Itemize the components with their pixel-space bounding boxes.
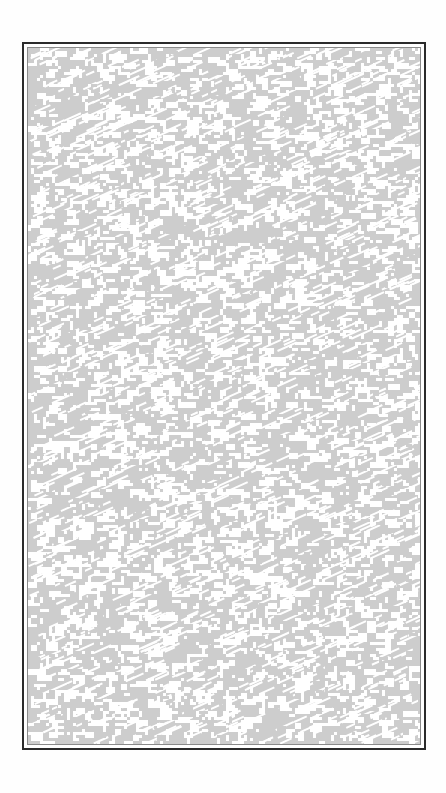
texture-panel [27, 47, 421, 745]
noise-texture-image [28, 48, 420, 744]
page [0, 0, 446, 793]
picture-frame [22, 42, 426, 750]
